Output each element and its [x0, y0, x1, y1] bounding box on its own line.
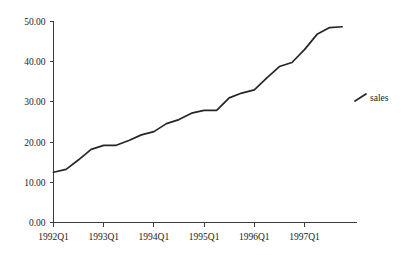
- x-tick-label: 1994Q1: [139, 232, 170, 242]
- x-tick-label: 1993Q1: [88, 232, 119, 242]
- line-chart: 0.0010.0020.0030.0040.0050.00 1992Q11993…: [0, 0, 409, 255]
- x-tick-label: 1992Q1: [38, 232, 69, 242]
- y-tick-label: 40.00: [24, 57, 46, 67]
- y-tick-label: 0.00: [29, 218, 46, 228]
- legend: [355, 94, 366, 101]
- series-line-sales: [54, 27, 343, 173]
- chart-canvas: 0.0010.0020.0030.0040.0050.00 1992Q11993…: [0, 0, 409, 255]
- y-axis-tick-labels: 0.0010.0020.0030.0040.0050.00: [24, 17, 46, 228]
- data-series-group: [54, 27, 343, 173]
- x-tick-label: 1997Q1: [289, 232, 320, 242]
- x-axis-tick-labels: 1992Q11993Q11994Q11995Q11996Q11997Q1: [38, 232, 320, 242]
- legend-label-sales: sales: [370, 93, 389, 103]
- y-tick-label: 50.00: [24, 17, 46, 27]
- x-axis-ticks: [54, 223, 305, 227]
- x-tick-label: 1995Q1: [189, 232, 220, 242]
- y-tick-label: 10.00: [24, 178, 46, 188]
- y-tick-label: 30.00: [24, 97, 46, 107]
- x-tick-label: 1996Q1: [239, 232, 270, 242]
- y-tick-label: 20.00: [24, 138, 46, 148]
- y-axis-ticks: [50, 22, 54, 223]
- legend-swatch-sales: [355, 94, 366, 101]
